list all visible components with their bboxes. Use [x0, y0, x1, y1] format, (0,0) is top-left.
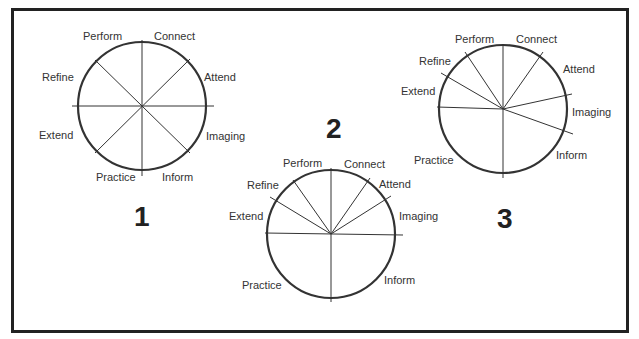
d2-label-inform: Inform	[384, 274, 415, 286]
diagram-1	[72, 40, 214, 176]
d1-label-refine: Refine	[42, 71, 74, 83]
diagram-3	[437, 44, 573, 178]
d1-label-attend: Attend	[204, 71, 236, 83]
d2-label-refine: Refine	[247, 179, 279, 191]
d2-label-connect: Connect	[344, 158, 385, 170]
d3-label-connect: Connect	[516, 33, 557, 45]
d1-label-extend: Extend	[39, 129, 73, 141]
d2-label-attend: Attend	[379, 178, 411, 190]
d1-number: 1	[134, 201, 150, 232]
d3-label-inform: Inform	[556, 149, 587, 161]
d2-number: 2	[326, 113, 342, 144]
d1-label-practice: Practice	[96, 171, 136, 183]
d1-label-inform: Inform	[162, 171, 193, 183]
d2-label-practice: Practice	[242, 279, 282, 291]
d3-label-extend: Extend	[401, 85, 435, 97]
d1-label-perform: Perform	[83, 30, 122, 42]
d2-label-imaging: Imaging	[399, 210, 438, 222]
d3-label-imaging: Imaging	[572, 106, 611, 118]
d3-label-attend: Attend	[563, 63, 595, 75]
d1-label-imaging: Imaging	[206, 130, 245, 142]
d3-label-perform: Perform	[455, 33, 494, 45]
d2-label-perform: Perform	[283, 157, 322, 169]
d3-number: 3	[497, 203, 513, 234]
circle-diagrams: Perform Connect Refine Attend Extend Ima…	[0, 0, 639, 339]
d2-label-extend: Extend	[229, 210, 263, 222]
d1-label-connect: Connect	[154, 30, 195, 42]
d3-label-refine: Refine	[419, 55, 451, 67]
d3-label-practice: Practice	[414, 154, 454, 166]
